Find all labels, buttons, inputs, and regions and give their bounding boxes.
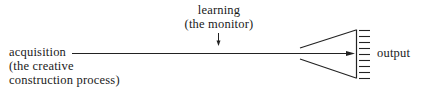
main-arrowhead-icon [346,51,355,56]
monitor-arrowhead-icon [217,41,221,47]
monitor-arrow [217,33,221,46]
diagram-graphics [0,0,422,93]
output-comb-icon [359,31,370,79]
main-arrow [72,51,355,56]
